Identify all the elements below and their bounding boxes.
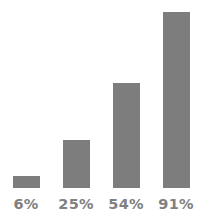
bar-group — [63, 140, 90, 188]
bar-label: 25% — [51, 196, 101, 213]
category-labels: 6% 25% 54% 91% — [0, 188, 201, 222]
bar — [63, 140, 90, 188]
bar-label: 91% — [151, 196, 201, 213]
bar-label: 54% — [101, 196, 151, 213]
bar-chart: 6% 25% 54% 91% — [0, 0, 201, 222]
bar — [113, 83, 140, 188]
plot-area — [0, 0, 201, 188]
bar-group — [113, 83, 140, 188]
bar-label: 6% — [1, 196, 51, 213]
bar-group — [163, 12, 190, 188]
bar-group — [13, 176, 40, 188]
bar — [163, 12, 190, 188]
bar — [13, 176, 40, 188]
